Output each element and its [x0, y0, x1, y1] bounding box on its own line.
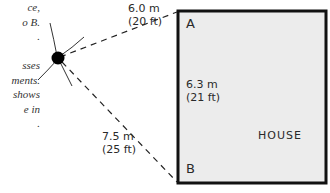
measurement-observer-to-b: 7.5 m (25 ft)	[102, 131, 136, 156]
arc-line	[60, 37, 84, 56]
sight-line-to-b	[62, 62, 177, 182]
metric-value: 7.5 m	[102, 131, 136, 144]
corner-a-label: A	[186, 17, 195, 32]
metric-value: 6.3 m	[186, 79, 220, 92]
observer-point-icon	[52, 52, 65, 65]
corner-b-label: B	[186, 162, 195, 177]
imperial-value: (21 ft)	[186, 92, 220, 105]
measurement-observer-to-a: 6.0 m (20 ft)	[128, 3, 162, 28]
arc-line	[50, 23, 57, 56]
measurement-a-to-b: 6.3 m (21 ft)	[186, 79, 220, 104]
triangulation-diagram	[0, 0, 330, 193]
imperial-value: (20 ft)	[128, 16, 162, 29]
house-label: HOUSE	[258, 130, 302, 143]
imperial-value: (25 ft)	[102, 144, 136, 157]
metric-value: 6.0 m	[128, 3, 162, 16]
